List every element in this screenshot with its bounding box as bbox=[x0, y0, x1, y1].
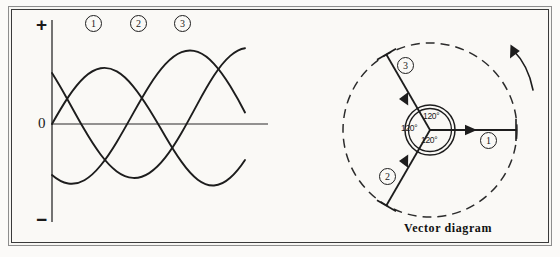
figure-graphics bbox=[0, 0, 560, 257]
vector-arrowhead-2 bbox=[399, 155, 408, 168]
sine-curve-phase-2 bbox=[52, 48, 245, 178]
axis-zero-label: 0 bbox=[38, 116, 46, 131]
axis-negative-label: − bbox=[36, 210, 47, 229]
vector-tip-tick-3 bbox=[377, 49, 396, 60]
angle-label-top: 120° bbox=[423, 112, 439, 121]
three-phase-figure: + 0 − 1 2 3 1 2 3 120° 120° 120° Vector … bbox=[0, 0, 560, 257]
axis-positive-label: + bbox=[36, 15, 47, 34]
waveform-phase-label-2: 2 bbox=[130, 15, 147, 32]
vector-label-2: 2 bbox=[379, 168, 396, 185]
vector-panel-graphics bbox=[0, 0, 533, 217]
angle-label-bottom: 120° bbox=[421, 136, 437, 145]
vector-diagram-caption: Vector diagram bbox=[383, 221, 513, 236]
waveform-phase-label-3: 3 bbox=[174, 15, 191, 32]
vector-label-3: 3 bbox=[397, 57, 414, 74]
vector-arrowhead-1 bbox=[465, 125, 477, 135]
waveform-phase-label-1: 1 bbox=[85, 15, 102, 32]
waveform-panel-graphics bbox=[52, 20, 268, 222]
vector-label-1: 1 bbox=[480, 132, 497, 149]
angle-label-left: 120° bbox=[401, 124, 417, 133]
vector-arrowhead-3 bbox=[399, 92, 408, 105]
rotation-direction-arc bbox=[513, 50, 533, 90]
vector-tip-tick-2 bbox=[377, 200, 396, 211]
sine-curve-phase-3 bbox=[52, 50, 245, 183]
